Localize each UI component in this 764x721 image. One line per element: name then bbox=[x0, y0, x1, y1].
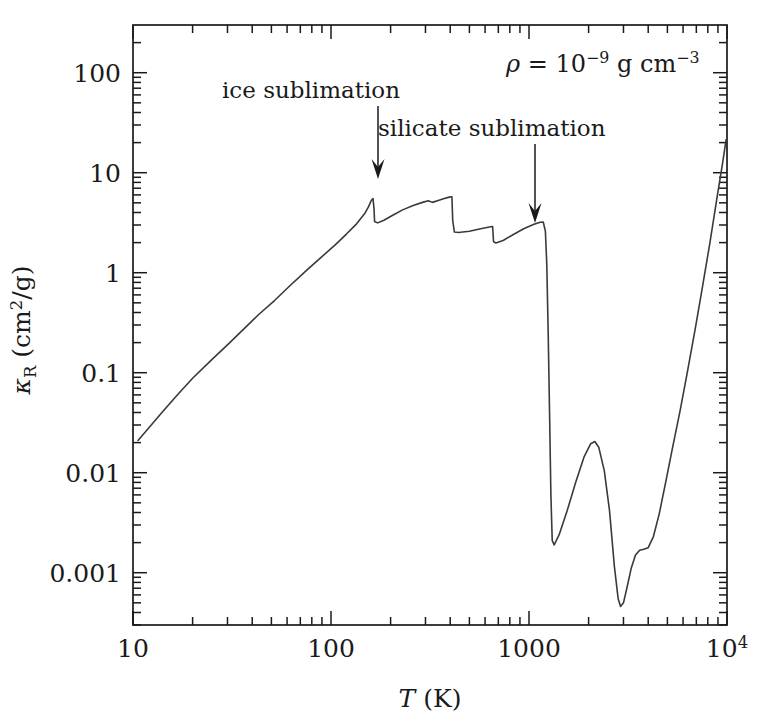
opacity-figure: 1010010001041001010.10.010.001 ice subli… bbox=[0, 0, 764, 721]
opacity-curve bbox=[138, 139, 726, 606]
y-tick-label: 100 bbox=[73, 59, 121, 88]
axis-tick-labels: 1010010001041001010.10.010.001 bbox=[49, 59, 748, 663]
y-tick-label: 0.001 bbox=[49, 559, 121, 588]
x-tick-label: 100 bbox=[307, 634, 355, 663]
annotation-label-ice-sublimation: ice sublimation bbox=[222, 77, 400, 103]
x-tick-label: 104 bbox=[706, 633, 748, 663]
annotation-label-silicate-sublimation: silicate sublimation bbox=[378, 115, 606, 141]
x-tick-label: 1000 bbox=[497, 634, 561, 663]
x-axis-title: T (K) bbox=[399, 684, 462, 713]
y-tick-label: 10 bbox=[89, 159, 121, 188]
svg-text:κR (cm2/g): κR (cm2/g) bbox=[7, 266, 40, 396]
y-tick-label: 0.1 bbox=[81, 359, 121, 388]
x-tick-label: 10 bbox=[117, 634, 149, 663]
density-annotation: ρ = 10−9 g cm−3 bbox=[505, 48, 700, 78]
opacity-plot: 1010010001041001010.10.010.001 ice subli… bbox=[0, 0, 764, 721]
annotations: ice sublimationsilicate sublimation bbox=[222, 77, 606, 223]
y-axis-title: κR (cm2/g) bbox=[7, 266, 40, 396]
y-tick-label: 0.01 bbox=[65, 459, 121, 488]
y-tick-label: 1 bbox=[105, 259, 121, 288]
